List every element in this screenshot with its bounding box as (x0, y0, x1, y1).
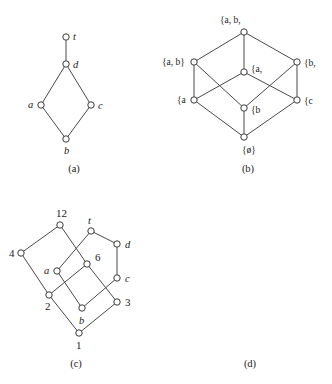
edge-c-b (66, 105, 91, 139)
node-b-ab (191, 59, 197, 65)
node-a-a (38, 102, 44, 108)
node-label-a-c: c (98, 100, 103, 111)
node-label-a-a: a (28, 99, 33, 110)
node-label-d-b: b (79, 315, 84, 326)
node-label-b-empty: {ø} (242, 145, 256, 155)
node-a-t (63, 34, 69, 40)
node-label-b-c: {c (304, 96, 313, 106)
edge-a-empty (194, 100, 244, 137)
node-label-b-abc: {a, b, (220, 15, 241, 25)
edge-ab-b (194, 62, 244, 108)
edge-12-6 (60, 225, 87, 264)
node-label-a-b: b (64, 145, 69, 156)
caption-c: (c) (56, 358, 96, 369)
edge-d-c (66, 64, 91, 105)
node-label-d-d: d (125, 239, 131, 250)
edge-abc-bc (244, 32, 297, 62)
node-c-4 (18, 250, 24, 256)
node-c-1 (76, 330, 82, 336)
edge-d-a (41, 64, 66, 105)
node-b-empty (241, 134, 247, 140)
node-label-d-a: a (44, 265, 49, 276)
node-b-c (294, 97, 300, 103)
node-b-abc (241, 29, 247, 35)
node-a-d (63, 61, 69, 67)
panel-c: 1246231 (0, 192, 166, 384)
node-label-b-b: {b (251, 105, 261, 115)
caption-a: (a) (54, 163, 94, 174)
node-label-d-c: c (125, 273, 130, 284)
edge-6-3 (87, 264, 117, 302)
node-d-c (114, 275, 120, 281)
node-c-3 (114, 299, 120, 305)
node-label-b-bc: {b, (304, 58, 316, 68)
node-label-b-a: {a (177, 95, 187, 105)
node-label-a-t: t (73, 31, 77, 42)
caption-d: (d) (230, 358, 270, 369)
node-label-c-12: 12 (56, 207, 67, 219)
node-a-c (88, 102, 94, 108)
node-b-ac (241, 69, 247, 75)
edge-12-4 (21, 225, 60, 253)
node-d-a (54, 268, 60, 274)
node-c-6 (84, 261, 90, 267)
node-d-b (79, 305, 85, 311)
edge-abc-ab (194, 32, 244, 62)
panel-d: tdacb (166, 192, 332, 384)
node-c-12 (57, 222, 63, 228)
node-b-a (191, 97, 197, 103)
edge-2-1 (49, 295, 79, 333)
diagram-d: tdacb (166, 192, 332, 384)
node-label-a-d: d (73, 59, 79, 70)
node-b-bc (294, 59, 300, 65)
edge-ac-c (244, 72, 297, 100)
node-label-c-4: 4 (9, 247, 15, 259)
node-label-c-1: 1 (76, 339, 82, 351)
diagram-c: 1246231 (0, 192, 166, 384)
node-d-t (88, 228, 94, 234)
edge-ac-a (194, 72, 244, 100)
node-label-b-ac: {a, (251, 64, 262, 74)
node-label-b-ab: {a, b} (162, 57, 185, 67)
caption-b: (b) (228, 163, 268, 174)
edge-a-b (41, 105, 66, 139)
node-c-2 (46, 292, 52, 298)
node-d-d (114, 241, 120, 247)
node-label-c-2: 2 (45, 300, 51, 312)
figure-grid: tdacb {a, b,{a, b}{a,{b,{a{b{c{ø} 124623… (0, 0, 332, 384)
node-a-b (63, 136, 69, 142)
node-label-c-6: 6 (95, 251, 101, 263)
node-label-c-3: 3 (125, 296, 131, 308)
node-b-b (241, 105, 247, 111)
